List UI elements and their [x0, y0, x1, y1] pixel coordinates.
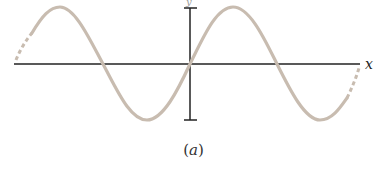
figure-caption: (a) [0, 141, 387, 159]
x-axis-label: x [365, 56, 373, 72]
y-axis-label: y [185, 0, 192, 7]
sine-wave-dashed-right [347, 68, 359, 98]
sine-wave-dashed-left [16, 33, 32, 60]
